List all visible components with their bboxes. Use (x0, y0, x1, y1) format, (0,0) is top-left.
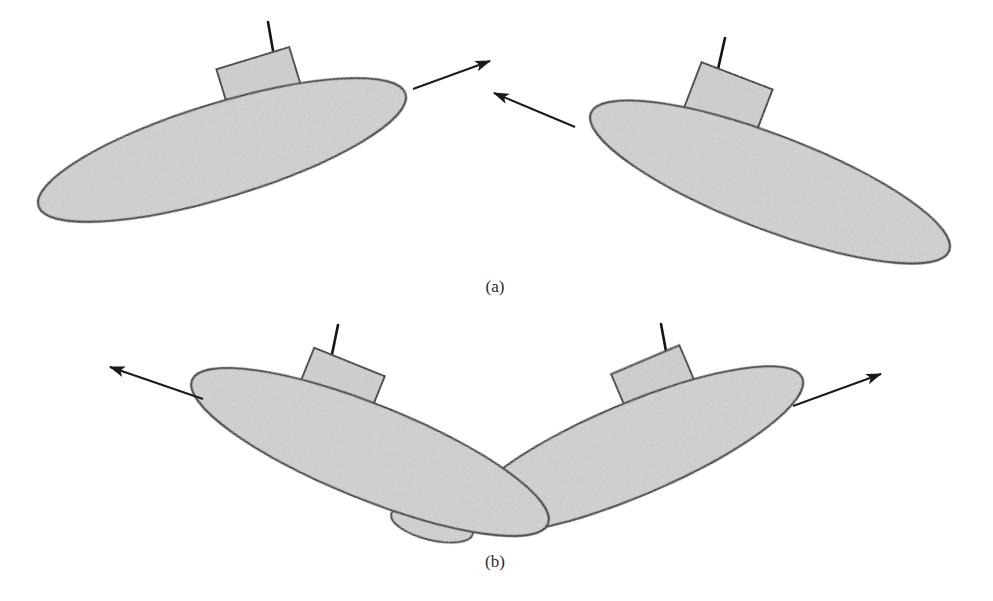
panel-b (110, 324, 881, 568)
motion-arrow-b-left (110, 367, 203, 399)
submarine-diagram-svg (0, 0, 993, 601)
submarine-b-left (174, 325, 565, 568)
figure-container: (a) (b) (0, 0, 993, 601)
motion-arrow-a-left (413, 61, 490, 89)
panel-caption-a: (a) (455, 277, 535, 297)
hull (574, 69, 966, 294)
motion-arrow-b-right (793, 374, 881, 406)
motion-arrow-a-right (494, 93, 575, 127)
panel-a (25, 22, 966, 295)
submarine-a-right (574, 38, 966, 295)
panel-caption-b: (b) (455, 552, 535, 572)
submarine-a-left (25, 22, 420, 251)
